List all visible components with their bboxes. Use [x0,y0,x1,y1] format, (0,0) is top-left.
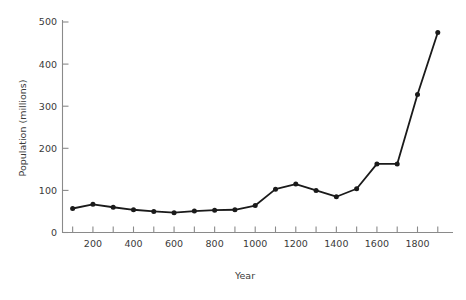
data-point-1500 [354,186,359,191]
data-point-300 [111,205,116,210]
data-point-800 [212,208,217,213]
x-tick-label-1400: 1400 [324,238,348,249]
data-series-line [73,33,438,213]
x-tick-label-1800: 1800 [405,238,429,249]
y-tick-label-400: 400 [39,59,57,70]
y-axis-tick-labels: 0100200300400500 [39,16,57,238]
x-axis-tick-labels: 20040060080010001200140016001800 [84,238,430,249]
data-point-700 [192,209,197,214]
y-tick-label-200: 200 [39,143,57,154]
y-axis-title: Population (millions) [17,80,28,177]
x-tick-label-400: 400 [124,238,142,249]
data-point-markers [70,30,440,215]
chart-canvas: 0100200300400500 20040060080010001200140… [0,0,466,300]
y-tick-label-100: 100 [39,185,57,196]
x-axis-ticks [73,227,438,233]
x-tick-label-800: 800 [206,238,224,249]
data-point-1200 [293,182,298,187]
data-point-500 [151,209,156,214]
data-point-1900 [435,30,440,35]
data-point-1700 [395,161,400,166]
data-point-900 [232,207,237,212]
data-point-400 [131,207,136,212]
y-tick-label-500: 500 [39,16,57,27]
y-tick-label-300: 300 [39,101,57,112]
x-tick-label-1200: 1200 [284,238,308,249]
data-point-200 [90,202,95,207]
y-tick-label-0: 0 [51,227,57,238]
data-point-1800 [415,92,420,97]
data-point-1300 [314,188,319,193]
x-tick-label-1600: 1600 [365,238,389,249]
data-point-600 [172,210,177,215]
x-tick-label-1000: 1000 [243,238,267,249]
data-point-1000 [253,203,258,208]
data-point-1400 [334,194,339,199]
data-point-100 [70,206,75,211]
data-point-1600 [374,161,379,166]
data-point-1100 [273,187,278,192]
y-axis-ticks [63,22,69,233]
x-tick-label-600: 600 [165,238,183,249]
x-tick-label-200: 200 [84,238,102,249]
population-line-chart: 0100200300400500 20040060080010001200140… [0,0,466,300]
x-axis-title: Year [234,270,255,281]
